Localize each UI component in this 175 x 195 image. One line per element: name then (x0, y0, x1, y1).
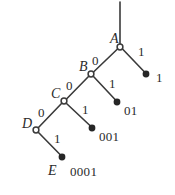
node-label-b: B (79, 60, 88, 74)
leaf-node-001 (89, 125, 96, 132)
edge-label-a-right: 1 (138, 45, 145, 58)
edge-label-c-right: 1 (82, 103, 89, 116)
codeword-0001: 0001 (70, 165, 97, 178)
node-label-e: E (48, 164, 57, 178)
node-b-circle (88, 71, 94, 77)
node-c-circle (61, 98, 67, 104)
edge-label-c-left: 0 (38, 106, 45, 119)
node-label-a: A (110, 32, 119, 46)
codeword-001: 001 (99, 130, 119, 143)
node-label-d: D (22, 117, 32, 131)
edge-label-d-right: 1 (54, 132, 61, 145)
leaf-node-1 (143, 71, 150, 78)
codeword-1: 1 (156, 71, 163, 84)
edge-label-b-left: 0 (66, 79, 73, 92)
leaf-node-01 (114, 99, 121, 106)
leaf-node-0001 (59, 154, 66, 161)
edge-label-b-right: 1 (109, 77, 116, 90)
tree-diagram-figure: A B C D E 1 0 1 0 1 0 1 1 01 001 0001 (0, 0, 175, 195)
node-label-c: C (51, 87, 60, 101)
edge-label-a-left: 0 (92, 54, 99, 67)
codeword-01: 01 (124, 104, 138, 117)
node-d-circle (33, 127, 39, 133)
